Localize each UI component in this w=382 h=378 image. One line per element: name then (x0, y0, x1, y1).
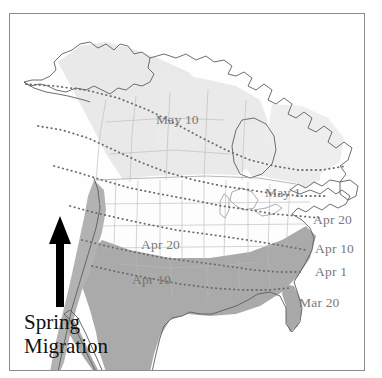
legend-line-2: Migration (24, 335, 108, 359)
figure-container: May 10 May 1 Apr 20 Apr 10 Apr 1 Mar 20 … (0, 0, 382, 378)
legend-spring-migration: Spring Migration (24, 311, 108, 358)
map-frame: May 10 May 1 Apr 20 Apr 10 Apr 1 Mar 20 … (9, 13, 365, 371)
north-arrow-icon (40, 214, 80, 309)
shade-florida (282, 284, 302, 332)
legend-line-1: Spring (24, 310, 80, 334)
